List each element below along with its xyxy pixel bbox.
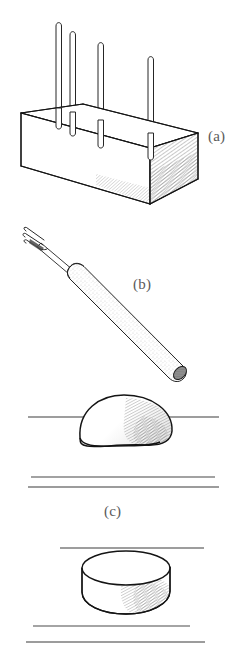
pin-3-base — [98, 120, 104, 148]
panel-b-fork-tool — [23, 227, 189, 382]
prong-1 — [24, 227, 44, 240]
panel-d-cylinder-on-rules — [26, 548, 205, 642]
tool-handle-texture — [67, 264, 186, 382]
panel-label-c: (c) — [104, 503, 121, 520]
tool-handle-highlight — [76, 269, 176, 370]
panel-a-block-with-pins — [21, 23, 198, 204]
pin-4-base — [148, 133, 154, 160]
panel-label-a: (a) — [208, 128, 225, 145]
figure-svg — [0, 0, 247, 658]
cylinder-top-face — [82, 551, 170, 585]
panel-c-dome-on-rules — [28, 395, 219, 487]
panel-label-b: (b) — [133, 276, 151, 293]
pin-1-base — [56, 108, 62, 129]
dome-shading-group — [124, 398, 173, 447]
figure-container: (a) (b) (c) — [0, 0, 247, 658]
pin-2-base — [70, 112, 76, 136]
